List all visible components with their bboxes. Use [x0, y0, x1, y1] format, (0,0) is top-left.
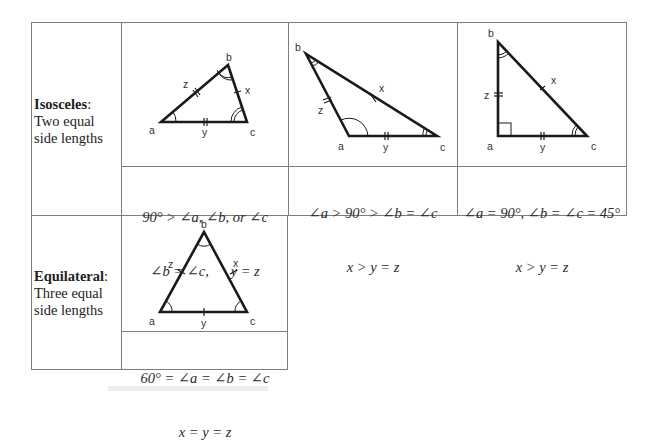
label-c: c [250, 315, 255, 327]
label-y: y [202, 126, 208, 138]
label-a: a [487, 140, 493, 152]
label-z: z [183, 78, 188, 90]
label-c: c [440, 141, 445, 153]
label-c: c [250, 126, 255, 138]
obtuse-isosceles-triangle [306, 54, 437, 140]
label-y: y [540, 141, 546, 153]
faint-footer-bar [108, 386, 268, 391]
label-y: y [201, 317, 207, 329]
label-a: a [149, 124, 155, 136]
label-x: x [245, 84, 251, 96]
label-b: b [295, 41, 301, 53]
right-isosceles-triangle [494, 42, 587, 140]
label-b: b [226, 51, 232, 63]
formula-line-2: x = y = z [122, 423, 288, 441]
label-a: a [338, 140, 344, 152]
equilateral-triangle [160, 232, 247, 316]
label-c: c [591, 140, 596, 152]
label-b: b [201, 218, 207, 230]
label-z: z [168, 258, 173, 270]
acute-isosceles-labels: b a c z x y [149, 51, 255, 138]
label-z: z [484, 89, 489, 101]
acute-isosceles-triangle [161, 65, 247, 126]
label-z: z [318, 104, 323, 116]
label-x: x [233, 257, 239, 269]
label-b: b [488, 27, 494, 39]
label-x: x [551, 74, 557, 86]
label-y: y [383, 141, 389, 153]
label-a: a [149, 315, 155, 327]
label-x: x [379, 82, 385, 94]
